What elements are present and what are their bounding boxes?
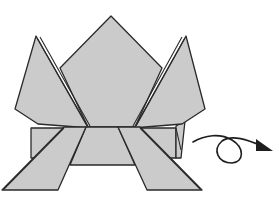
origami-diagram: Origami frog diagram with turn-over arro…	[0, 0, 279, 206]
turn-over-arrow-icon	[193, 136, 273, 163]
frog-illustration	[0, 0, 279, 206]
